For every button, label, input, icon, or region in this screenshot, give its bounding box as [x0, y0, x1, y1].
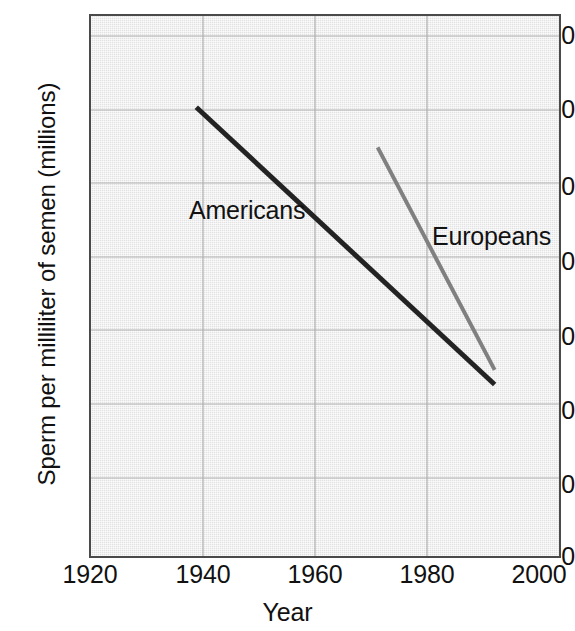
- x-axis-tick-1940: 1940: [176, 562, 231, 587]
- series-line-europeans: [378, 147, 495, 370]
- chart-figure: 140 120 100 80 60 40 20 0 1920 1940 1960…: [0, 0, 575, 631]
- series-label-europeans: Europeans: [432, 224, 551, 249]
- y-axis-title: Sperm per milliliter of semen (millions): [33, 4, 61, 564]
- x-axis-title: Year: [0, 598, 575, 627]
- x-axis-tick-2000: 2000: [512, 562, 567, 587]
- vertical-gridlines: [203, 16, 427, 556]
- plot-canvas: [91, 16, 559, 556]
- x-axis-tick-1980: 1980: [400, 562, 455, 587]
- plot-area: [89, 14, 561, 558]
- x-axis-tick-1920: 1920: [63, 562, 118, 587]
- horizontal-gridlines: [91, 36, 559, 478]
- x-axis-tick-1960: 1960: [288, 562, 343, 587]
- series-label-americans: Americans: [189, 198, 305, 223]
